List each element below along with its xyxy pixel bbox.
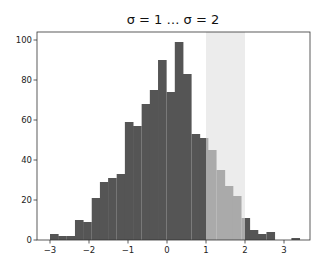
histogram-bar (183, 74, 192, 240)
histogram-figure: σ = 1 … σ = 2 −3−2−10123 020406080100 (0, 0, 326, 271)
histogram-bar (158, 60, 167, 240)
histogram-bar (150, 90, 159, 240)
y-tick-label: 40 (21, 155, 32, 165)
histogram-bar (100, 182, 109, 240)
y-tick-label: 0 (27, 235, 32, 245)
histogram-bar (133, 126, 142, 240)
y-tick-label: 20 (21, 195, 32, 205)
histogram-bar (125, 122, 134, 240)
x-axis: −3−2−10123 (44, 240, 287, 255)
x-tick-label: 1 (203, 245, 208, 255)
histogram-chart: σ = 1 … σ = 2 −3−2−10123 020406080100 (0, 0, 326, 271)
histogram-bar (142, 104, 151, 240)
x-tick-label: −3 (44, 245, 57, 255)
histogram-bars (50, 42, 300, 240)
x-tick-label: −1 (122, 245, 135, 255)
histogram-bar (67, 236, 76, 240)
histogram-bar (241, 218, 245, 240)
histogram-bar (167, 92, 176, 240)
histogram-bar (108, 178, 117, 240)
histogram-bar (200, 138, 207, 240)
histogram-bar (117, 174, 126, 240)
x-tick-label: 3 (281, 245, 286, 255)
histogram-bar (245, 218, 250, 240)
histogram-bar (75, 220, 84, 240)
y-axis: 020406080100 (16, 35, 37, 245)
histogram-bar (192, 134, 201, 240)
histogram-bar (217, 170, 226, 240)
y-tick-label: 100 (16, 35, 32, 45)
y-tick-label: 80 (21, 75, 32, 85)
chart-title: σ = 1 … σ = 2 (127, 12, 220, 27)
histogram-bar (175, 42, 184, 240)
histogram-bar (233, 196, 242, 240)
histogram-bar (266, 232, 275, 240)
x-tick-label: −2 (83, 245, 96, 255)
histogram-bar (250, 230, 259, 240)
histogram-bar (58, 236, 67, 240)
histogram-bar (258, 234, 267, 240)
histogram-bar (83, 222, 92, 240)
x-tick-label: 0 (164, 245, 169, 255)
histogram-bar (225, 186, 234, 240)
y-tick-label: 60 (21, 115, 32, 125)
x-tick-label: 2 (242, 245, 247, 255)
histogram-bar (208, 150, 217, 240)
histogram-bar (50, 234, 59, 240)
histogram-bar (92, 198, 101, 240)
